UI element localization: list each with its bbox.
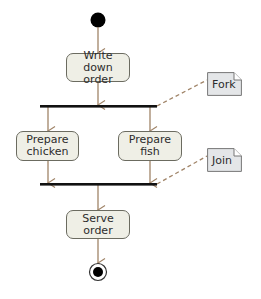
fork-note-connector bbox=[157, 80, 207, 106]
action-prepare-fish: Prepare fish bbox=[118, 131, 182, 161]
note-join: Join bbox=[207, 148, 242, 172]
action-label-line1: Serve bbox=[82, 213, 114, 225]
action-label-line2: fish bbox=[129, 146, 171, 158]
action-label-line2: order bbox=[82, 225, 114, 237]
note-label: Fork bbox=[212, 78, 236, 91]
action-prepare-chicken: Prepare chicken bbox=[16, 131, 79, 161]
join-bar bbox=[40, 183, 157, 186]
final-node bbox=[93, 267, 103, 277]
action-write-down-order: Write down order bbox=[66, 53, 130, 82]
fork-bar bbox=[40, 105, 157, 108]
action-label-line2: order bbox=[67, 74, 129, 86]
note-label: Join bbox=[212, 154, 232, 167]
note-fork: Fork bbox=[207, 72, 242, 96]
action-label-line2: chicken bbox=[26, 146, 68, 158]
initial-node bbox=[91, 13, 106, 28]
action-serve-order: Serve order bbox=[66, 210, 130, 239]
action-label-line1: Write down bbox=[67, 50, 129, 74]
